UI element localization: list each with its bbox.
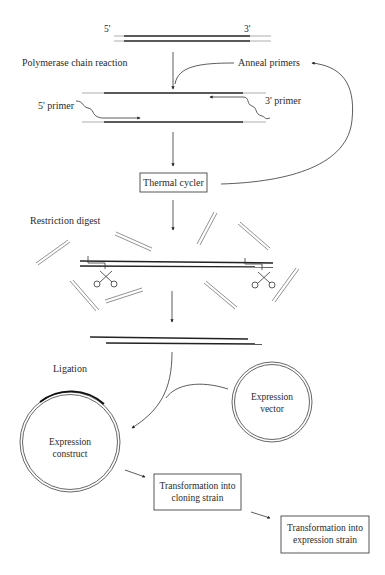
- digest-strand: [80, 256, 273, 270]
- restriction-digest-label: Restriction digest: [30, 215, 100, 226]
- transformation-expression-line2: expression strain: [293, 535, 357, 545]
- five-prime-primer: [76, 101, 140, 118]
- scissors-icon: [252, 272, 275, 288]
- thermal-cycler-label: Thermal cycler: [143, 177, 204, 188]
- expression-vector-line1: Expression: [251, 392, 293, 402]
- ligation-label: Ligation: [53, 363, 87, 374]
- three-prime-primer-label: 3' primer: [265, 95, 302, 106]
- ligation-arrow: [132, 352, 172, 428]
- transformation-cloning-line2: cloning strain: [172, 493, 224, 503]
- three-prime-label: 3': [244, 24, 251, 34]
- expression-construct-line1: Expression: [49, 437, 91, 447]
- transformation-expression-line1: Transformation into: [287, 523, 363, 533]
- transformation-expression-box: Transformation into expression strain: [281, 516, 369, 553]
- pcr-label: Polymerase chain reaction: [22, 57, 128, 68]
- expression-construct-line2: construct: [53, 449, 88, 459]
- scissors-icon: [94, 271, 117, 287]
- expression-vector: Expression vector: [232, 362, 312, 442]
- anneal-primers-label: Anneal primers: [238, 57, 300, 68]
- digested-insert: [90, 337, 262, 344]
- down-arrow: [125, 470, 145, 477]
- template-dna: [114, 36, 271, 41]
- thermal-cycler-box: Thermal cycler: [140, 173, 207, 192]
- expression-construct: Expression construct: [20, 391, 120, 492]
- transformation-cloning-box: Transformation into cloning strain: [154, 474, 241, 510]
- pcr-cloning-workflow-diagram: 5' 3' Polymerase chain reaction Anneal p…: [0, 0, 385, 575]
- five-prime-label: 5': [104, 24, 111, 34]
- down-arrow: [251, 512, 270, 518]
- vector-arrow: [166, 384, 228, 398]
- expression-vector-line2: vector: [260, 404, 285, 414]
- cycle-loop-arrow: [221, 63, 353, 184]
- anneal-curve-arrow: [175, 63, 234, 84]
- transformation-cloning-line1: Transformation into: [160, 481, 236, 491]
- three-prime-primer: [210, 97, 270, 119]
- five-prime-primer-label: 5' primer: [38, 100, 75, 111]
